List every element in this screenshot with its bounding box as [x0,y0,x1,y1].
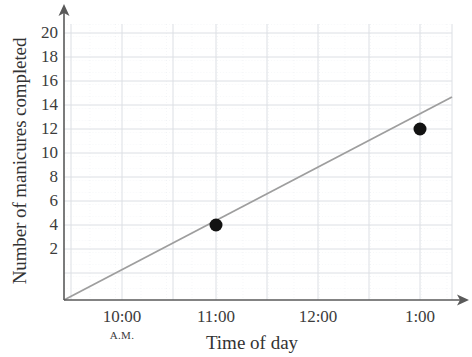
y-tick-label-10: 10 [32,144,58,161]
y-tick-label-16: 16 [32,72,58,89]
chart-container: Number of manicures completed 20 18 16 1… [0,0,472,357]
x-tick-label-100: 1:00 [375,308,465,326]
y-tick-label-2: 2 [32,240,58,257]
y-tick-label-6: 6 [32,192,58,209]
y-tick-label-18: 18 [32,48,58,65]
y-axis-title: Number of manicures completed [9,11,31,311]
y-tick-label-8: 8 [32,168,58,185]
y-tick-label-12: 12 [32,120,58,137]
x-axis-title: Time of day [132,332,372,354]
y-tick-label-14: 14 [32,96,58,113]
data-point[interactable] [414,123,427,136]
plot-area [0,0,472,357]
y-tick-label-20: 20 [32,24,58,41]
y-tick-label-4: 4 [32,216,58,233]
x-tick-label-1200: 12:00 [273,308,363,326]
x-tick-label-1100: 11:00 [171,308,261,326]
x-tick-label-1000: 10:00 [77,308,167,326]
data-point[interactable] [210,219,223,232]
